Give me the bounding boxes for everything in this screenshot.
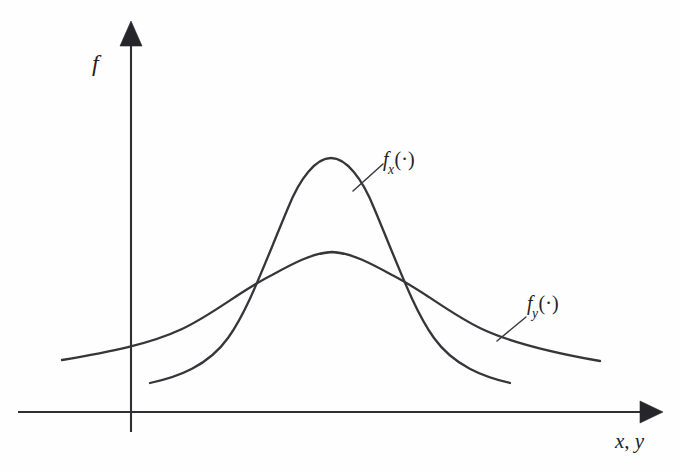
- narrow-curve-label: fx(·): [383, 148, 415, 175]
- density-comparison-figure: f x, y fx(·) fy(·): [0, 0, 681, 471]
- y-axis-label-text: f: [92, 50, 99, 76]
- x-axis-label-x: x: [615, 429, 624, 453]
- broad-curve-label-argument: (·): [539, 292, 559, 314]
- broad-low-density-curve: [62, 252, 600, 361]
- x-axis-arrowhead-icon: [640, 401, 663, 423]
- narrow-curve-label-subscript: x: [388, 162, 394, 177]
- broad-curve-label-subscript: y: [532, 306, 538, 321]
- y-axis-label: f: [92, 50, 99, 77]
- x-axis-label-separator: ,: [624, 429, 635, 453]
- x-axis-label-y: y: [635, 429, 644, 453]
- figure-canvas: [0, 0, 681, 471]
- fy-label-leader-line: [497, 317, 526, 341]
- narrow-curve-label-argument: (·): [395, 148, 415, 170]
- y-axis-arrowhead-icon: [120, 21, 142, 46]
- x-axis-label: x, y: [615, 429, 644, 454]
- broad-curve-label: fy(·): [527, 292, 559, 319]
- narrow-tall-density-curve: [150, 158, 510, 383]
